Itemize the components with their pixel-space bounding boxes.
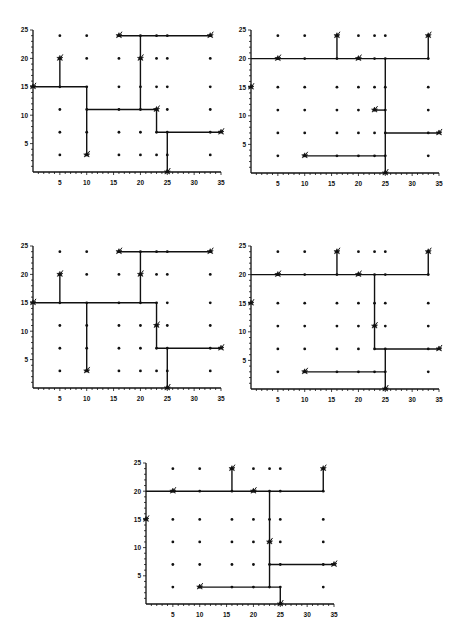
grid-point xyxy=(166,57,169,60)
grid-point xyxy=(171,518,174,521)
grid-point xyxy=(303,325,306,328)
grid-point xyxy=(373,250,376,253)
grid-point xyxy=(118,347,121,350)
x-tick-label: 25 xyxy=(382,180,390,187)
grid-point xyxy=(166,108,169,111)
grid-point xyxy=(276,86,279,89)
y-tick-label: 15 xyxy=(21,299,29,306)
y-tick-label: 25 xyxy=(239,26,247,33)
grid-point xyxy=(118,57,121,60)
grid-point xyxy=(139,370,142,373)
grid-point xyxy=(336,348,339,351)
x-tick-label: 30 xyxy=(191,179,199,186)
grid-point xyxy=(209,324,212,327)
grid-point xyxy=(252,467,255,470)
x-tick-label: 10 xyxy=(83,395,91,402)
x-tick-label: 35 xyxy=(330,611,338,618)
grid-point xyxy=(303,302,306,305)
grid-point xyxy=(336,325,339,328)
grid-point xyxy=(85,273,88,276)
grid-point xyxy=(303,132,306,135)
y-tick-label: 10 xyxy=(21,112,29,119)
y-tick-label: 5 xyxy=(24,356,28,363)
grid-point xyxy=(85,34,88,37)
plot-panel-middle-right: 5101520253035510152025 xyxy=(239,242,443,403)
terminal-star-icon xyxy=(436,129,442,135)
grid-point xyxy=(118,370,121,373)
grid-point xyxy=(303,34,306,37)
terminal-star-icon xyxy=(331,561,337,567)
grid-point xyxy=(139,324,142,327)
grid-point xyxy=(336,86,339,89)
grid-point xyxy=(276,34,279,37)
grid-point xyxy=(322,541,325,544)
grid-point xyxy=(373,86,376,89)
x-tick-label: 10 xyxy=(301,396,309,403)
x-tick-label: 20 xyxy=(137,395,145,402)
grid-point xyxy=(209,370,212,373)
grid-point xyxy=(384,250,387,253)
grid-point xyxy=(384,34,387,37)
grid-point xyxy=(336,132,339,135)
grid-point xyxy=(58,324,61,327)
x-tick-label: 35 xyxy=(435,396,443,403)
grid-point xyxy=(155,273,158,276)
grid-point xyxy=(209,57,212,60)
grid-point xyxy=(427,109,430,112)
grid-point xyxy=(209,154,212,157)
grid-point xyxy=(198,563,201,566)
x-tick-label: 30 xyxy=(304,611,312,618)
grid-point xyxy=(373,132,376,135)
x-tick-label: 10 xyxy=(83,179,91,186)
grid-point xyxy=(155,57,158,60)
grid-point xyxy=(231,518,234,521)
grid-point xyxy=(276,109,279,112)
steiner-tree-figure: 5101520253035510152025510152025303551015… xyxy=(0,0,467,639)
x-tick-label: 15 xyxy=(328,396,336,403)
y-tick-label: 20 xyxy=(239,55,247,62)
x-tick-label: 5 xyxy=(171,611,175,618)
x-tick-label: 10 xyxy=(301,180,309,187)
grid-point xyxy=(171,541,174,544)
grid-point xyxy=(252,541,255,544)
grid-point xyxy=(357,348,360,351)
grid-point xyxy=(357,132,360,135)
plot-panel-top-left: 5101520253035510152025 xyxy=(21,26,225,186)
y-tick-label: 10 xyxy=(239,112,247,119)
x-tick-label: 30 xyxy=(409,396,417,403)
y-tick-label: 20 xyxy=(21,55,29,62)
y-tick-label: 10 xyxy=(239,328,247,335)
grid-point xyxy=(155,370,158,373)
x-tick-label: 5 xyxy=(58,179,62,186)
grid-point xyxy=(252,563,255,566)
x-tick-label: 35 xyxy=(217,395,225,402)
grid-point xyxy=(279,541,282,544)
x-tick-label: 30 xyxy=(409,180,417,187)
grid-point xyxy=(166,273,169,276)
terminal-star-icon xyxy=(218,128,224,134)
x-tick-label: 35 xyxy=(435,180,443,187)
terminal-star-icon xyxy=(218,344,224,350)
grid-point xyxy=(373,34,376,37)
x-tick-label: 5 xyxy=(276,396,280,403)
x-tick-label: 25 xyxy=(164,179,172,186)
x-tick-label: 5 xyxy=(276,180,280,187)
grid-point xyxy=(139,131,142,134)
plot-panel-bottom: 5101520253035510152025 xyxy=(134,459,338,618)
grid-point xyxy=(357,302,360,305)
x-tick-label: 15 xyxy=(110,179,118,186)
x-tick-label: 35 xyxy=(217,179,225,186)
grid-point xyxy=(322,586,325,589)
grid-point xyxy=(231,541,234,544)
grid-point xyxy=(85,57,88,60)
grid-point xyxy=(118,154,121,157)
y-tick-label: 10 xyxy=(21,328,29,335)
grid-point xyxy=(357,325,360,328)
y-tick-label: 5 xyxy=(242,141,246,148)
grid-point xyxy=(252,518,255,521)
grid-point xyxy=(276,154,279,157)
grid-point xyxy=(276,348,279,351)
x-tick-label: 25 xyxy=(277,611,285,618)
grid-point xyxy=(118,85,121,88)
grid-point xyxy=(303,86,306,89)
